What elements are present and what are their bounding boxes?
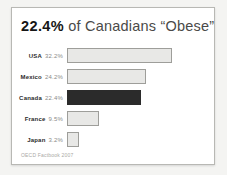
- value-label: 3.2%: [49, 137, 63, 143]
- bar-usa: [67, 48, 172, 63]
- country-label: Japan: [27, 137, 45, 143]
- bar-canada: [67, 90, 141, 105]
- row-labels: France9.5%: [12, 111, 63, 126]
- chart-row-france: France9.5%: [12, 111, 216, 126]
- value-label: 9.5%: [49, 116, 63, 122]
- title-text: of Canadians “Obese”: [64, 18, 214, 34]
- bar-france: [67, 111, 99, 126]
- bar-mexico: [67, 69, 146, 84]
- bar-japan: [67, 132, 79, 147]
- country-label: Mexico: [20, 74, 42, 80]
- source-note: OECD Factbook 2007: [21, 152, 74, 158]
- title-highlight-value: 22.4%: [21, 18, 64, 34]
- value-label: 24.2%: [45, 74, 63, 80]
- country-label: France: [25, 116, 46, 122]
- country-label: USA: [29, 53, 42, 59]
- chart-row-japan: Japan3.2%: [12, 132, 216, 147]
- row-labels: USA32.2%: [12, 48, 63, 63]
- country-label: Canada: [19, 95, 42, 101]
- row-labels: Japan3.2%: [12, 132, 63, 147]
- chart-row-usa: USA32.2%: [12, 48, 216, 63]
- chart-card: 22.4% of Canadians “Obese” USA32.2%Mexic…: [11, 7, 215, 165]
- value-label: 32.2%: [45, 53, 63, 59]
- chart-title: 22.4% of Canadians “Obese”: [21, 18, 211, 35]
- value-label: 22.4%: [45, 95, 63, 101]
- row-labels: Canada22.4%: [12, 90, 63, 105]
- chart-row-mexico: Mexico24.2%: [12, 69, 216, 84]
- row-labels: Mexico24.2%: [12, 69, 63, 84]
- chart-row-canada: Canada22.4%: [12, 90, 216, 105]
